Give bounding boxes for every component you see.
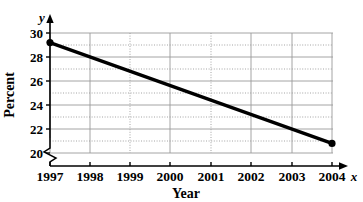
x-tick-label-2001: 2001 <box>198 169 225 184</box>
x-tick-label-2002: 2002 <box>238 169 265 184</box>
y-axis <box>44 14 56 166</box>
data-point-1997 <box>46 39 53 46</box>
y-axis-symbol: y <box>37 10 45 25</box>
y-axis-arrow <box>46 14 53 23</box>
y-axis-title: Percent <box>2 72 17 118</box>
line-chart: 30 28 26 24 22 20 1997 1998 1999 2000 20… <box>0 0 363 202</box>
x-tick-labels: 1997 1998 1999 2000 2001 2002 2003 2004 <box>37 169 346 184</box>
x-tick-label-1998: 1998 <box>77 169 104 184</box>
x-tick-label-1999: 1999 <box>117 169 144 184</box>
y-tick-label-28: 28 <box>30 50 44 65</box>
x-axis-symbol: x <box>350 169 358 184</box>
x-tick-label-2004: 2004 <box>319 169 346 184</box>
y-tick-label-26: 26 <box>30 74 44 89</box>
chart-canvas: 30 28 26 24 22 20 1997 1998 1999 2000 20… <box>0 0 363 202</box>
y-tick-label-22: 22 <box>30 122 43 137</box>
x-axis-title: Year <box>172 186 200 201</box>
y-tick-label-30: 30 <box>30 26 43 41</box>
data-point-2004 <box>328 140 335 147</box>
x-tick-label-2003: 2003 <box>279 169 306 184</box>
x-tick-label-2000: 2000 <box>157 169 184 184</box>
y-tick-label-20: 20 <box>30 146 43 161</box>
y-tick-label-24: 24 <box>30 98 44 113</box>
y-tick-labels: 30 28 26 24 22 20 <box>30 26 44 161</box>
x-tick-label-1997: 1997 <box>37 169 64 184</box>
